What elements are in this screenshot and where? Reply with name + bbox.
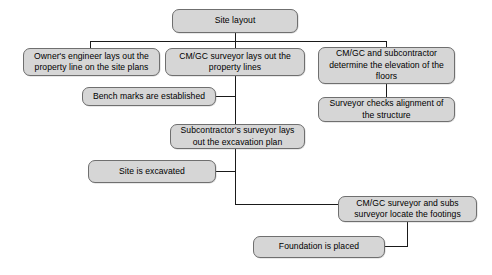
node-surveyor-checks[interactable]: Surveyor checks alignment of the structu… (318, 97, 455, 122)
node-site-excavated-label: Site is excavated (93, 166, 211, 177)
edge-centre-spine-lower (235, 148, 236, 205)
node-cmgc-surveyor[interactable]: CM/GC surveyor lays out the property lin… (165, 48, 305, 76)
node-site-layout-label: Site layout (177, 15, 293, 26)
edge-top-bus (90, 41, 387, 42)
node-site-layout[interactable]: Site layout (172, 9, 298, 33)
node-locate-footings[interactable]: CM/GC surveyor and subs surveyor locate … (338, 196, 477, 222)
node-owner-engineer-label: Owner's engineer lays out the property l… (28, 51, 155, 74)
node-bench-marks-label: Bench marks are established (87, 91, 211, 102)
node-sub-surveyor-label: Subcontractor's surveyor lays out the ex… (175, 125, 300, 148)
node-bench-marks[interactable]: Bench marks are established (82, 87, 216, 106)
flowchart-canvas: Site layout Owner's engineer lays out th… (0, 0, 492, 275)
edge-to-locate-footings (235, 204, 339, 205)
edge-centre-spine-upper (235, 76, 236, 125)
edge-bench-marks-tie (216, 96, 235, 97)
node-cmgc-surveyor-label: CM/GC surveyor lays out the property lin… (170, 51, 300, 74)
node-owner-engineer[interactable]: Owner's engineer lays out the property l… (23, 48, 160, 76)
node-foundation-placed[interactable]: Foundation is placed (253, 236, 385, 258)
node-foundation-placed-label: Foundation is placed (258, 241, 380, 252)
node-site-excavated[interactable]: Site is excavated (88, 160, 216, 183)
node-cmgc-subcontractor[interactable]: CM/GC and subcontractor determine the el… (318, 47, 455, 84)
node-cmgc-subcontractor-label: CM/GC and subcontractor determine the el… (323, 48, 450, 82)
edge-footings-drop (407, 222, 408, 247)
node-surveyor-checks-label: Surveyor checks alignment of the structu… (323, 98, 450, 121)
node-sub-surveyor[interactable]: Subcontractor's surveyor lays out the ex… (170, 124, 305, 149)
node-locate-footings-label: CM/GC surveyor and subs surveyor locate … (343, 198, 472, 221)
edge-to-foundation (385, 246, 408, 247)
edge-elevation-to-surveyor-checks (386, 84, 387, 97)
edge-site-excavated-tie (216, 171, 235, 172)
